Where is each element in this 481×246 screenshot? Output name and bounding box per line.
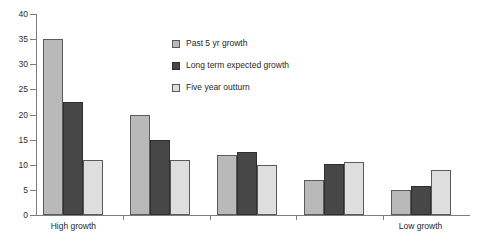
bar xyxy=(150,140,170,215)
legend-item-label: Long term expected growth xyxy=(186,61,289,70)
bar xyxy=(63,102,83,215)
bar xyxy=(237,152,257,215)
bar-group xyxy=(304,14,364,215)
y-axis-tick-label: 5 xyxy=(2,186,28,195)
bar xyxy=(324,164,344,215)
legend-swatch-icon xyxy=(172,84,180,92)
bar xyxy=(43,39,63,215)
bar-group xyxy=(43,14,103,215)
x-axis-tick xyxy=(383,215,384,220)
bar-group xyxy=(391,14,451,215)
bar xyxy=(431,170,451,215)
bar xyxy=(83,160,103,215)
bar xyxy=(217,155,237,215)
bar xyxy=(170,160,190,215)
bar xyxy=(344,162,364,215)
bar xyxy=(391,190,411,215)
x-axis-category-label: High growth xyxy=(51,222,96,231)
y-axis-tick-label: 0 xyxy=(2,211,28,220)
bar xyxy=(257,165,277,215)
x-axis-tick xyxy=(123,215,124,220)
x-axis-tick xyxy=(210,215,211,220)
bar xyxy=(411,186,431,215)
legend-item: Five year outturn xyxy=(172,80,289,95)
y-axis-tick-label: 10 xyxy=(2,161,28,170)
legend-item-label: Past 5 yr growth xyxy=(186,39,247,48)
legend-item: Past 5 yr growth xyxy=(172,36,289,51)
chart-legend: Past 5 yr growth Long term expected grow… xyxy=(172,36,289,102)
y-axis-tick-label: 40 xyxy=(2,10,28,19)
legend-item: Long term expected growth xyxy=(172,58,289,73)
y-axis-tick-label: 35 xyxy=(2,35,28,44)
bar xyxy=(130,115,150,216)
x-axis-category-label: Low growth xyxy=(399,222,442,231)
bar-chart: 4035302520151050 High growthLow growth P… xyxy=(0,0,481,246)
legend-swatch-icon xyxy=(172,62,180,70)
bar xyxy=(304,180,324,215)
y-axis-tick-label: 30 xyxy=(2,60,28,69)
legend-swatch-icon xyxy=(172,40,180,48)
x-axis-tick xyxy=(296,215,297,220)
y-axis-tick-label: 20 xyxy=(2,111,28,120)
y-axis-tick-label: 25 xyxy=(2,85,28,94)
legend-item-label: Five year outturn xyxy=(186,83,250,92)
y-axis-tick-label: 15 xyxy=(2,136,28,145)
x-axis-line xyxy=(36,215,470,216)
